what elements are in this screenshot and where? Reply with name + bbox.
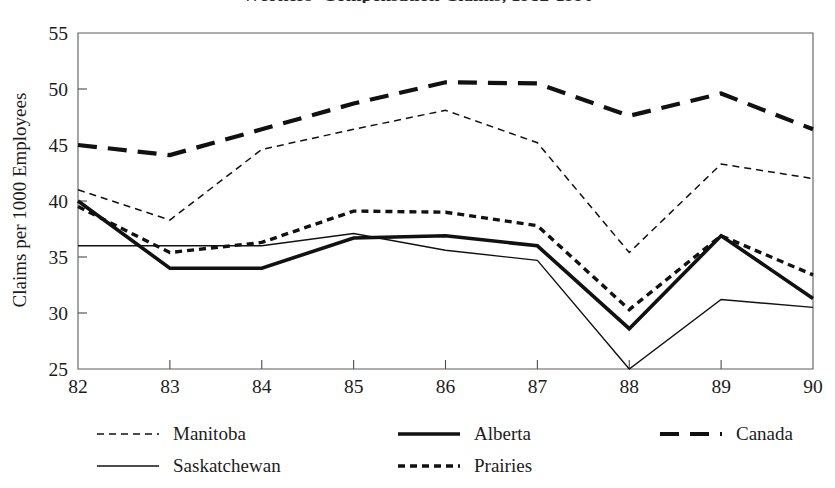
y-axis-title: Claims per 1000 Employees (9, 93, 30, 308)
x-axis-ticks: 828384858687888990 (68, 360, 823, 397)
x-tick-label: 87 (528, 376, 548, 397)
legend-item-prairies[interactable]: Prairies (398, 455, 532, 476)
y-tick-label: 25 (49, 359, 69, 380)
chart-figure: Workers' Compensation Claims, 1982-1990 … (0, 0, 835, 488)
x-tick-label: 89 (711, 376, 731, 397)
series-line-alberta (78, 201, 813, 329)
y-tick-label: 30 (49, 303, 69, 324)
legend-label-prairies: Prairies (474, 455, 532, 476)
legend-label-manitoba: Manitoba (173, 423, 246, 444)
series-line-canada (78, 82, 813, 155)
x-tick-label: 90 (803, 376, 823, 397)
x-tick-label: 86 (436, 376, 456, 397)
y-tick-label: 35 (49, 247, 69, 268)
line-chart-svg: Claims per 1000 Employees 25303540455055… (0, 0, 835, 488)
series-line-prairies (78, 207, 813, 310)
legend-item-saskatchewan[interactable]: Saskatchewan (97, 455, 281, 476)
legend-item-canada[interactable]: Canada (660, 423, 794, 444)
series-line-manitoba (78, 110, 813, 252)
x-tick-label: 85 (344, 376, 364, 397)
chart-title: Workers' Compensation Claims, 1982-1990 (0, 0, 835, 3)
data-series-group (78, 82, 813, 369)
chart-legend: ManitobaAlbertaCanadaSaskatchewanPrairie… (97, 423, 794, 476)
legend-item-alberta[interactable]: Alberta (398, 423, 532, 444)
legend-label-alberta: Alberta (474, 423, 532, 444)
x-tick-label: 82 (68, 376, 88, 397)
y-tick-label: 40 (49, 191, 69, 212)
x-tick-label: 83 (160, 376, 180, 397)
chart-title-clipped: Workers' Compensation Claims, 1982-1990 (0, 0, 835, 3)
legend-label-saskatchewan: Saskatchewan (173, 455, 281, 476)
x-tick-label: 84 (252, 376, 272, 397)
y-tick-label: 55 (49, 23, 69, 44)
y-axis-title-group: Claims per 1000 Employees (9, 93, 30, 308)
legend-label-canada: Canada (736, 423, 794, 444)
y-tick-label: 45 (49, 135, 69, 156)
y-tick-label: 50 (49, 79, 69, 100)
x-tick-label: 88 (620, 376, 640, 397)
legend-item-manitoba[interactable]: Manitoba (97, 423, 246, 444)
